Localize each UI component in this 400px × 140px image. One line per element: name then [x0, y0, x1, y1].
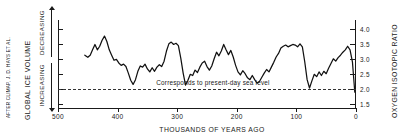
x-tick [58, 108, 59, 112]
ice-volume-direction-indicator: DECREASING INCREASING [38, 8, 56, 112]
decreasing-arrow-head [49, 6, 55, 10]
y-tick-label-0: 1.5 [360, 100, 370, 107]
sea-level-reference-line [58, 89, 356, 90]
y-tick-label-1: 2.0 [360, 85, 370, 92]
decreasing-arrow-shaft [51, 9, 52, 57]
y-tick-label-4: 3.5 [360, 40, 370, 47]
y-tick [58, 44, 63, 45]
left-axis-line [58, 20, 59, 108]
x-tick-label-1: 400 [112, 113, 124, 120]
increasing-arrow-shaft [51, 63, 52, 111]
y-tick-label-5: 4.0 [360, 26, 370, 33]
y-tick [58, 29, 63, 30]
x-tick-label-3: 200 [231, 113, 243, 120]
x-tick [177, 108, 178, 112]
x-tick-label-0: 500 [52, 113, 64, 120]
x-axis-title: THOUSANDS OF YEARS AGO [159, 126, 264, 133]
y-tick-label-2: 2.5 [360, 70, 370, 77]
right-axis-title: OXYGEN ISOTOPIC RATIO [391, 22, 398, 118]
x-tick [118, 108, 119, 112]
source-credit: AFTER CLIMAP, J. D. HAYS ET AL. [6, 18, 11, 118]
y-tick [58, 104, 63, 105]
figure: AFTER CLIMAP, J. D. HAYS ET AL. GLOBAL I… [0, 0, 400, 140]
x-tick [356, 108, 357, 112]
x-tick-label-5: 0 [354, 113, 358, 120]
y-tick [350, 44, 355, 45]
x-tick-label-4: 100 [290, 113, 302, 120]
increasing-arrow-head [49, 108, 55, 112]
y-tick [350, 59, 355, 60]
bottom-axis-line [58, 108, 356, 109]
plot-area: Corresponds to present-day sea level 1.5… [58, 20, 356, 108]
direction-label-increasing: INCREASING [38, 64, 45, 107]
y-tick [58, 74, 63, 75]
right-axis-line [355, 20, 356, 108]
left-axis-title: GLOBAL ICE VOLUME [24, 16, 31, 120]
y-tick [350, 74, 355, 75]
y-tick-label-3: 3.0 [360, 55, 370, 62]
y-tick [350, 104, 355, 105]
x-tick [237, 108, 238, 112]
isotope-curve [58, 20, 356, 108]
sea-level-annotation: Corresponds to present-day sea level [156, 79, 269, 86]
x-tick [296, 108, 297, 112]
y-tick [350, 29, 355, 30]
y-tick [58, 59, 63, 60]
direction-label-decreasing: DECREASING [38, 10, 45, 55]
x-tick-label-2: 300 [171, 113, 183, 120]
